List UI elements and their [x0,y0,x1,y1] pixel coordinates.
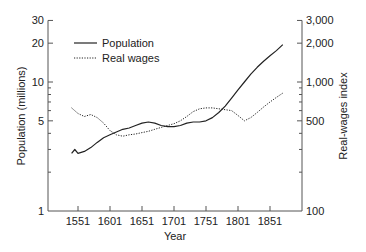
legend: Population Real wages [74,37,160,64]
y2-tick-label: 1,000 [306,76,334,88]
x-tick-label: 1701 [162,215,186,227]
y2-tick-label: 500 [306,115,324,127]
x-axis-title: Year [164,230,187,242]
y-tick-label: 10 [32,76,44,88]
legend-label-population: Population [102,37,154,49]
population-wages-chart: 151020301005001,0002,0003,00015511601165… [0,0,366,252]
x-tick-label: 1851 [258,215,282,227]
x-tick-label: 1551 [66,215,90,227]
legend-label-real-wages: Real wages [102,52,160,64]
y-tick-label: 1 [38,205,44,217]
y-tick-label: 5 [38,115,44,127]
y2-tick-label: 3,000 [306,14,334,26]
y-axis-title: Population (millions) [15,66,27,165]
y-tick-label: 20 [32,37,44,49]
y2-axis-title: Real-wages index [337,72,349,160]
x-tick-label: 1751 [194,215,218,227]
x-tick-label: 1601 [98,215,122,227]
axes: 151020301005001,0002,0003,00015511601165… [32,14,334,227]
y2-tick-label: 2,000 [306,37,334,49]
y-tick-label: 30 [32,14,44,26]
series-real-wages [72,93,283,136]
x-tick-label: 1801 [226,215,250,227]
x-tick-label: 1651 [130,215,154,227]
y2-tick-label: 100 [306,205,324,217]
